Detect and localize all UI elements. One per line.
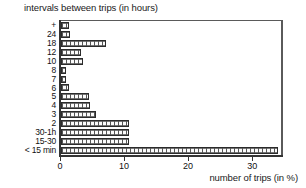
y-axis-label: 6 bbox=[0, 84, 56, 93]
bar-row bbox=[61, 57, 282, 66]
bar bbox=[61, 93, 89, 100]
bar-row bbox=[61, 83, 282, 92]
bar bbox=[61, 129, 129, 136]
x-tick-label: 20 bbox=[183, 161, 193, 171]
bar-row bbox=[61, 66, 282, 75]
bar bbox=[61, 102, 90, 109]
x-axis-line bbox=[59, 155, 283, 157]
bar-row bbox=[61, 128, 282, 137]
bar-chart: intervals between trips (in hours) +2418… bbox=[0, 0, 306, 188]
bar bbox=[61, 58, 83, 65]
bar-row bbox=[61, 92, 282, 101]
bar bbox=[61, 84, 69, 91]
bar bbox=[61, 111, 96, 118]
bar bbox=[61, 40, 106, 47]
bar bbox=[61, 49, 81, 56]
bar bbox=[61, 67, 66, 74]
bar-row bbox=[61, 39, 282, 48]
bar bbox=[61, 22, 69, 29]
bar bbox=[61, 76, 66, 83]
y-axis-label: < 15 min bbox=[0, 146, 56, 155]
y-axis-label: 10 bbox=[0, 57, 56, 66]
x-tick-label: 30 bbox=[247, 161, 257, 171]
bar-row bbox=[61, 119, 282, 128]
x-tick-label: 10 bbox=[119, 161, 129, 171]
bar-row bbox=[61, 146, 282, 155]
y-axis-label: 8 bbox=[0, 66, 56, 75]
chart-title: intervals between trips (in hours) bbox=[24, 2, 158, 13]
bar-row bbox=[61, 101, 282, 110]
x-tick-label: 0 bbox=[57, 161, 62, 171]
bar-row bbox=[61, 137, 282, 146]
bar bbox=[61, 138, 129, 145]
y-axis-category-labels: +24181210876543230-1h15-30< 15 min bbox=[0, 21, 56, 155]
bar-row bbox=[61, 21, 282, 30]
bar bbox=[61, 120, 129, 127]
bar bbox=[61, 31, 70, 38]
y-axis-label: 7 bbox=[0, 75, 56, 84]
y-axis-label: 3 bbox=[0, 110, 56, 119]
bar bbox=[61, 147, 278, 154]
bar-row bbox=[61, 48, 282, 57]
bar-row bbox=[61, 75, 282, 84]
bar-row bbox=[61, 110, 282, 119]
y-axis-label: 4 bbox=[0, 101, 56, 110]
bars-layer bbox=[61, 21, 282, 155]
x-axis-title: number of trips (in %) bbox=[209, 172, 298, 183]
y-axis-label: 5 bbox=[0, 92, 56, 101]
bar-row bbox=[61, 30, 282, 39]
